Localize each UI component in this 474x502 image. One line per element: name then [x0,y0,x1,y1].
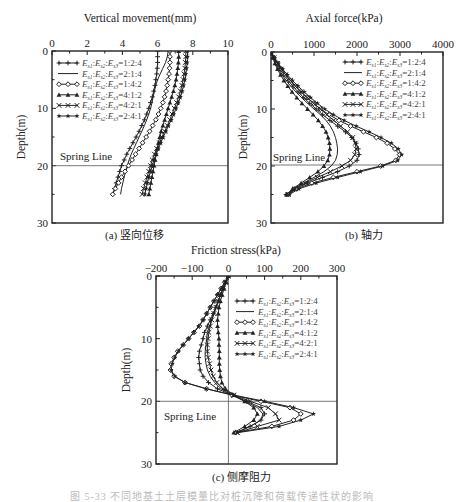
legend-item: Es1:Es2:Es3=1:4:2 [235,317,318,328]
y-tick-label: 0 [147,270,153,282]
x-tick-label: 1000 [303,38,326,50]
chart-b-y-axis-title: Depth(m) [237,114,250,159]
chart-a-y-ticks: 0102030 [37,45,56,229]
chart-a-spring-line-label: Spring Line [60,150,112,162]
chart-b-x-axis-title: Axial force(kPa) [306,12,383,25]
x-tick-label: 10 [223,37,235,49]
y-tick-label: 0 [43,45,49,57]
y-tick-label: 20 [256,160,268,172]
legend-label: Es1:Es2:Es3=4:1:2 [257,328,318,339]
legend-item: Es1:Es2:Es3=4:2:1 [343,99,426,110]
legend-label: Es1:Es2:Es3=4:2:1 [81,100,142,111]
x-tick-label: −100 [181,262,204,274]
chart-a-y-axis-title: Depth(m) [15,114,28,159]
x-tick-label: 200 [293,262,310,274]
legend-item: Es1:Es2:Es3=1:2:4 [235,296,319,307]
x-tick-label: 0 [49,37,55,49]
chart-b-legend: Es1:Es2:Es3=1:2:4Es1:Es2:Es3=2:1:4Es1:Es… [342,57,426,121]
x-tick-label: 2 [84,37,90,49]
legend-item: Es1:Es2:Es3=4:2:1 [235,338,318,349]
legend-label: Es1:Es2:Es3=2:1:4 [81,69,142,80]
y-tick-label: 10 [256,103,268,115]
legend-item: Es1:Es2:Es3=2:4:1 [234,349,317,360]
chart-b-spring-line-label: Spring Line [273,151,325,163]
y-tick-label: 20 [37,160,49,172]
x-tick-label: 0 [226,262,232,274]
y-tick-label: 10 [141,333,153,345]
chart-b-x-ticks: 01000200030004000 [268,38,454,56]
chart-a-x-ticks: 0246810 [49,37,234,55]
legend-item: Es1:Es2:Es3=2:1:4 [236,307,318,318]
legend-item: Es1:Es2:Es3=4:1:2 [57,90,142,101]
legend-item: Es1:Es2:Es3=2:1:4 [344,68,426,79]
legend-label: Es1:Es2:Es3=2:4:1 [257,349,318,360]
legend-item: Es1:Es2:Es3=4:1:2 [343,89,426,100]
x-tick-label: 4000 [432,38,455,50]
x-tick-label: 300 [329,262,346,274]
legend-label: Es1:Es2:Es3=1:4:2 [257,317,318,328]
legend-label: Es1:Es2:Es3=1:2:4 [365,57,426,68]
chart-c-x-axis-title: Friction stress(kPa) [191,244,281,257]
series-triangle [269,50,333,197]
legend-label: Es1:Es2:Es3=1:2:4 [81,58,142,69]
legend-label: Es1:Es2:Es3=4:2:1 [257,338,318,349]
x-tick-label: 0 [268,38,274,50]
legend-label: Es1:Es2:Es3=2:4:1 [81,111,142,122]
legend-label: Es1:Es2:Es3=4:1:2 [81,90,142,101]
legend-label: Es1:Es2:Es3=1:4:2 [365,78,426,89]
chart-a-vertical-movement: Vertical movement(mm) 0246810 0102030 De… [15,12,234,242]
chart-c-x-ticks: −200−1000100200300 [145,262,346,280]
legend-item: Es1:Es2:Es3=4:1:2 [235,328,318,339]
chart-b-caption: (b) 轴力 [345,228,383,242]
legend-item: Es1:Es2:Es3=1:4:2 [57,79,142,90]
y-tick-label: 20 [141,395,153,407]
legend-label: Es1:Es2:Es3=2:1:4 [257,307,318,318]
legend-item: Es1:Es2:Es3=1:2:4 [57,58,143,69]
chart-c-spring-line-label: Spring Line [164,410,216,422]
chart-c-y-axis-title: Depth(m) [120,347,133,392]
chart-b-axial-force: Axial force(kPa) 01000200030004000 01020… [237,12,455,242]
y-tick-label: 30 [256,217,268,229]
figure-caption: 图 5-33 不同地基土土层模量比对桩沉降和荷载传递性状的影响 [70,488,410,502]
x-tick-label: 3000 [389,38,412,50]
legend-item: Es1:Es2:Es3=1:4:2 [343,78,426,89]
chart-a-x-axis-title: Vertical movement(mm) [84,12,197,25]
x-tick-label: 2000 [346,38,369,50]
x-tick-label: 6 [155,37,161,49]
legend-item: Es1:Es2:Es3=2:4:1 [56,111,141,122]
legend-item: Es1:Es2:Es3=2:4:1 [342,110,425,121]
legend-item: Es1:Es2:Es3=1:2:4 [343,57,427,68]
legend-label: Es1:Es2:Es3=4:1:2 [365,89,426,100]
chart-c-y-ticks: 0102030 [141,270,160,470]
x-tick-label: 8 [190,37,196,49]
series-triangle [146,49,181,197]
legend-label: Es1:Es2:Es3=2:4:1 [365,110,426,121]
chart-b-y-ticks: 0102030 [256,46,275,229]
chart-c-caption: (c) 侧摩阻力 [212,470,271,484]
legend-item: Es1:Es2:Es3=4:2:1 [57,100,142,111]
y-tick-label: 0 [262,46,268,58]
y-tick-label: 10 [37,102,49,114]
x-tick-label: 4 [120,37,126,49]
y-tick-label: 30 [37,217,49,229]
legend-item: Es1:Es2:Es3=2:1:4 [58,69,142,80]
y-tick-label: 30 [141,458,153,470]
chart-c-friction-stress: Friction stress(kPa) −200−1000100200300 … [120,244,346,484]
chart-a-legend: Es1:Es2:Es3=1:2:4Es1:Es2:Es3=2:1:4Es1:Es… [56,58,142,122]
chart-a-caption: (a) 竖向位移 [105,228,164,242]
chart-c-legend: Es1:Es2:Es3=1:2:4Es1:Es2:Es3=2:1:4Es1:Es… [234,296,318,360]
x-tick-label: 100 [256,262,273,274]
legend-label: Es1:Es2:Es3=4:2:1 [365,99,426,110]
legend-label: Es1:Es2:Es3=2:1:4 [365,68,426,79]
legend-label: Es1:Es2:Es3=1:2:4 [257,296,318,307]
legend-label: Es1:Es2:Es3=1:4:2 [81,79,142,90]
